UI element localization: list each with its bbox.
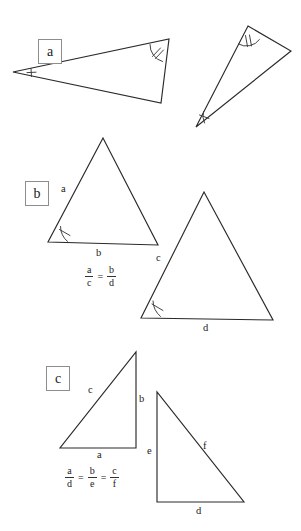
fraction-b-over-d: b d <box>106 265 117 288</box>
fraction-numerator: c <box>110 466 118 478</box>
fraction-numerator: b <box>107 265 116 277</box>
figure-page: a b c a b c d c b a e f d a c = b d a d … <box>0 0 301 531</box>
fraction-numerator: a <box>65 466 73 478</box>
label-c-triangle2-side-e: e <box>147 446 152 457</box>
label-b-triangle2-side-c: c <box>156 253 161 264</box>
equation-section-b: a c = b d <box>84 265 117 288</box>
section-marker-b: b <box>25 181 49 206</box>
fraction-numerator: a <box>85 265 93 277</box>
equals-sign: = <box>75 473 87 483</box>
section-marker-a-label: a <box>47 45 53 59</box>
section-a-triangle-left <box>13 39 169 103</box>
label-c-triangle2-side-d: d <box>196 506 201 517</box>
fraction-denominator: d <box>107 277 116 288</box>
label-c-triangle1-side-a: a <box>97 450 102 461</box>
section-marker-a: a <box>38 39 62 64</box>
section-marker-b-label: b <box>34 187 41 201</box>
label-c-triangle1-side-c: c <box>88 385 93 396</box>
fraction-denominator: f <box>111 478 118 489</box>
label-b-triangle1-side-b: b <box>96 248 101 259</box>
fraction-numerator: b <box>88 466 97 478</box>
section-c-triangle-right <box>157 392 244 502</box>
label-b-triangle1-side-a: a <box>61 184 66 195</box>
label-c-triangle1-side-b: b <box>139 394 144 405</box>
section-a-triangle-right <box>196 26 291 127</box>
label-c-triangle2-side-f: f <box>203 441 207 452</box>
fraction-c-over-f: c f <box>109 466 119 489</box>
equals-sign: = <box>98 473 110 483</box>
fraction-a-over-d: a d <box>64 466 75 489</box>
section-c-triangle-left <box>60 352 136 448</box>
equation-section-c: a d = b e = c f <box>64 466 120 489</box>
fraction-b-over-e: b e <box>87 466 98 489</box>
fraction-denominator: d <box>65 478 74 489</box>
fraction-a-over-c: a c <box>84 265 94 288</box>
section-marker-c-label: c <box>55 372 61 386</box>
fraction-denominator: c <box>85 277 93 288</box>
equals-sign: = <box>94 272 106 282</box>
section-marker-c: c <box>46 366 70 391</box>
label-b-triangle2-side-d: d <box>203 323 208 334</box>
fraction-denominator: e <box>88 478 96 489</box>
